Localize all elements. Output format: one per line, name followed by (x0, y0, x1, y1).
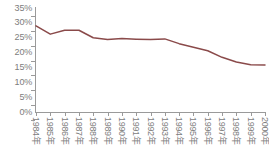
x-tick-mark (165, 113, 166, 116)
x-tick-label: 1991年 (131, 117, 140, 145)
x-tick-mark (136, 113, 137, 116)
x-tick-label: 1997年 (217, 117, 226, 145)
y-tick-label: 10% (15, 78, 32, 87)
y-tick-label: 20% (15, 48, 32, 57)
x-tick-label: 1985年 (45, 117, 54, 145)
line-chart: 0%5%10%15%20%25%30%35% 1984年1985年1986年19… (0, 0, 269, 156)
y-tick-label: 15% (15, 63, 32, 72)
series-line-group (36, 8, 265, 112)
y-tick-label: 5% (19, 93, 32, 102)
x-axis: 1984年1985年1986年1987年1988年1989年1990年1991年… (36, 117, 267, 156)
y-tick-label: 25% (15, 33, 32, 42)
x-tick-mark (179, 113, 180, 116)
y-axis: 0%5%10%15%20%25%30%35% (0, 0, 34, 120)
y-tick-mark (31, 16, 35, 17)
x-tick-mark (251, 113, 252, 116)
x-tick-mark (265, 113, 266, 116)
x-tick-mark (222, 113, 223, 116)
x-tick-label: 1986年 (60, 117, 69, 145)
plot-area (36, 8, 265, 112)
y-tick-mark (31, 31, 35, 32)
x-tick-label: 1994年 (174, 117, 183, 145)
series-line-path (36, 26, 265, 65)
y-tick-label: 30% (15, 18, 32, 27)
x-tick-mark (208, 113, 209, 116)
x-tick-label: 1992年 (146, 117, 155, 145)
x-tick-mark (236, 113, 237, 116)
x-tick-label: 1989年 (103, 117, 112, 145)
y-tick-mark (31, 120, 35, 121)
x-tick-label: 1998年 (231, 117, 240, 145)
y-tick-label: 35% (15, 4, 32, 13)
x-tick-mark (50, 113, 51, 116)
x-tick-label: 1996年 (203, 117, 212, 145)
x-tick-label: 2000年 (260, 117, 269, 145)
x-tick-label: 1984年 (31, 117, 40, 145)
x-tick-label: 1993年 (160, 117, 169, 145)
x-tick-mark (108, 113, 109, 116)
y-tick-mark (31, 46, 35, 47)
x-tick-label: 1987年 (74, 117, 83, 145)
x-tick-label: 1995年 (188, 117, 197, 145)
x-tick-label: 1988年 (88, 117, 97, 145)
x-tick-mark (79, 113, 80, 116)
x-tick-mark (65, 113, 66, 116)
x-tick-mark (151, 113, 152, 116)
x-tick-mark (193, 113, 194, 116)
x-tick-label: 1999年 (246, 117, 255, 145)
y-tick-mark (31, 105, 35, 106)
y-tick-mark (31, 75, 35, 76)
y-tick-label: 0% (19, 108, 32, 117)
x-tick-mark (93, 113, 94, 116)
x-tick-label: 1990年 (117, 117, 126, 145)
y-tick-mark (31, 90, 35, 91)
y-tick-mark (31, 61, 35, 62)
x-tick-mark (122, 113, 123, 116)
x-tick-mark (36, 113, 37, 116)
